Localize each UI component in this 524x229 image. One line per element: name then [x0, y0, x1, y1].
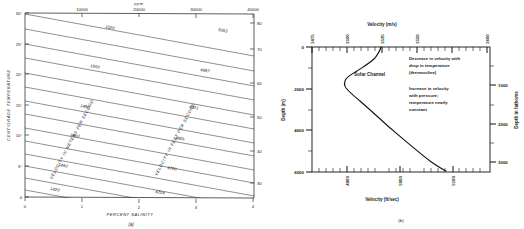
- panel-b-svg: 1475 1500 1525 1550 1600 Velocity (m/s): [262, 0, 524, 229]
- annotation-1-line-0: Decrease in velocity with: [409, 56, 460, 61]
- panel-a-plot-frame: [25, 13, 254, 198]
- panel-b-left-tick-6000: 6000: [294, 170, 304, 175]
- annotation-1-line-1: drop in temperature: [409, 63, 450, 68]
- annotation-1-line-2: (thermocline): [409, 70, 437, 75]
- panel-b-top-tick-1525: 1525: [380, 34, 385, 44]
- annotation-2-line-3: constant: [409, 107, 427, 112]
- panel-b-right-major-ticks: [490, 85, 496, 162]
- panel-a-salinity-temperature-chart: 10000 20000 30000 40000 ppm 0 1 2 3 4 PE…: [0, 0, 262, 229]
- panel-a-top-tick-0: 10000: [76, 7, 88, 12]
- panel-b-right-axis-title: Depth in fathoms: [514, 91, 519, 129]
- panel-a-bottom-tick-4: 4: [252, 204, 255, 209]
- panel-a-left-tick-5: 25°: [16, 42, 23, 47]
- panel-b-left-tick-4000: 4000: [294, 128, 304, 133]
- panel-a-left-tick-2: 10°: [16, 133, 23, 138]
- panel-b-top-tick-1475: 1475: [310, 34, 315, 44]
- panel-b-bottom-axis-title: Velocity (ft/sec): [365, 197, 399, 202]
- panel-b-right-tick-1000: 1000: [498, 83, 508, 88]
- panel-b-left-minor-ticks: [308, 68, 312, 151]
- panel-a-top-tick-2: 30000: [190, 7, 202, 12]
- panel-a-caption: (a): [128, 222, 134, 227]
- panel-b-bottom-tick-4900: 4900: [345, 175, 350, 185]
- annotation-2-line-2: temperature nearly: [409, 100, 448, 105]
- panel-a-top-tick-1: 20000: [133, 7, 145, 12]
- panel-b-right-tick-2000: 2000: [498, 122, 508, 127]
- panel-b-plot-frame: [312, 47, 490, 172]
- panel-a-left-axis-title: CENTIGRADE TEMPERATURE: [6, 69, 11, 141]
- panel-a-svg: 10000 20000 30000 40000 ppm 0 1 2 3 4 PE…: [0, 0, 262, 229]
- panel-b-right-tick-3000: 3000: [498, 160, 508, 165]
- panel-b-velocity-depth-chart: 1475 1500 1525 1550 1600 Velocity (m/s): [262, 0, 524, 229]
- panel-b-left-tick-0: 0: [302, 45, 305, 50]
- panel-b-caption: (b): [398, 218, 404, 223]
- panel-a-left-tick-6: 30°: [16, 11, 23, 16]
- panel-a-top-axis-title: ppm: [133, 1, 144, 6]
- panel-a-bottom-tick-2: 2: [138, 205, 141, 210]
- panel-b-top-tick-1500: 1500: [345, 34, 350, 44]
- panel-b-top-axis-title: Velocity (m/s): [367, 22, 397, 27]
- panel-b-left-axis-title: Depth (m): [281, 99, 286, 121]
- panel-b-top-tick-1600: 1600: [485, 34, 490, 44]
- panel-b-right-minor-ticks: [490, 66, 494, 143]
- annotation-2-line-1: with pressure;: [408, 93, 439, 98]
- panel-a-left-tick-1: 5°: [18, 164, 22, 169]
- annotation-2-line-0: Increase in velocity: [409, 86, 449, 91]
- panel-a-left-tick-0: 0: [20, 195, 23, 200]
- panel-a-left-tick-3: 15°: [16, 103, 23, 108]
- panel-a-bottom-tick-1: 1: [81, 204, 84, 209]
- panel-a-left-tick-4: 20°: [16, 72, 23, 77]
- figure-container: 10000 20000 30000 40000 ppm 0 1 2 3 4 PE…: [0, 0, 524, 229]
- panel-b-left-major-ticks: [306, 47, 312, 172]
- panel-a-bottom-tick-0: 0: [24, 204, 27, 209]
- panel-a-bottom-axis-title: PERCENT SALINITY: [107, 212, 154, 217]
- panel-b-left-tick-2000: 2000: [294, 87, 304, 92]
- panel-b-bottom-tick-5100: 5100: [451, 175, 456, 185]
- sofar-channel-label: Sofar Channel: [354, 72, 385, 77]
- panel-a-top-tick-3: 40000: [247, 7, 259, 12]
- panel-a-bottom-tick-3: 3: [195, 205, 198, 210]
- panel-b-bottom-tick-5000: 5000: [398, 175, 403, 185]
- panel-b-top-tick-1550: 1550: [415, 34, 420, 44]
